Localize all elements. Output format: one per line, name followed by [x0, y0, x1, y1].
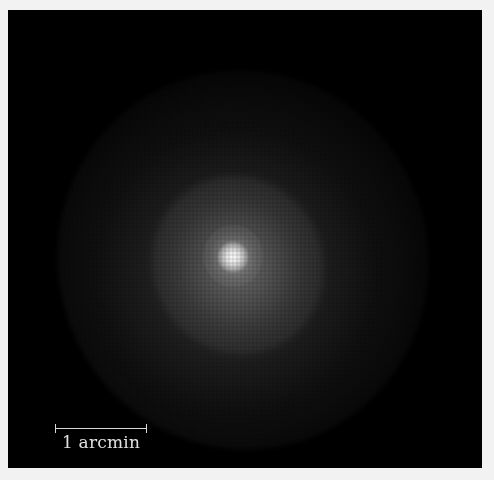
scale-bar-line [55, 428, 147, 429]
pixel-noise-texture [8, 10, 482, 468]
scale-bar-label: 1 arcmin [54, 432, 148, 452]
astronomical-image: 1 arcmin [8, 10, 482, 468]
